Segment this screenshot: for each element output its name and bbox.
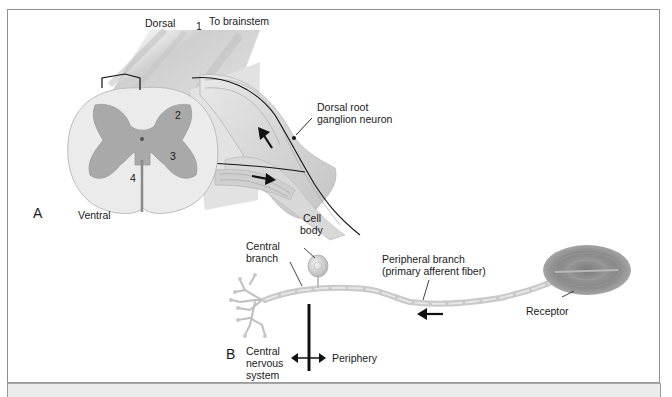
label-cns-line2: nervous bbox=[246, 357, 283, 369]
label-central-branch-line2: branch bbox=[246, 252, 278, 264]
panel-letter-b: B bbox=[226, 346, 235, 362]
label-cns-line3: system bbox=[246, 369, 279, 381]
label-peripheral-branch-line1: Peripheral branch bbox=[382, 253, 465, 265]
label-drg-line1: Dorsal root bbox=[317, 101, 368, 113]
label-cns-line1: Central bbox=[246, 345, 280, 357]
label-ventral: Ventral bbox=[78, 209, 111, 221]
label-number-1: 1 bbox=[196, 20, 202, 32]
label-cell-line2: body bbox=[300, 224, 323, 236]
label-drg-line2: ganglion neuron bbox=[317, 113, 392, 125]
label-to-brainstem: To brainstem bbox=[209, 15, 269, 27]
label-number-2: 2 bbox=[175, 109, 181, 121]
label-number-4: 4 bbox=[130, 172, 136, 184]
panel-letter-a: A bbox=[33, 205, 42, 221]
label-cell-line1: Cell bbox=[303, 212, 321, 224]
label-dorsal: Dorsal bbox=[145, 17, 175, 29]
label-periphery: Periphery bbox=[332, 352, 377, 364]
spinal-cord-diagram bbox=[0, 0, 672, 397]
label-number-3: 3 bbox=[170, 150, 176, 162]
label-peripheral-branch-line2: (primary afferent fiber) bbox=[382, 265, 486, 277]
label-central-branch-line1: Central bbox=[246, 240, 280, 252]
label-receptor: Receptor bbox=[526, 305, 569, 317]
